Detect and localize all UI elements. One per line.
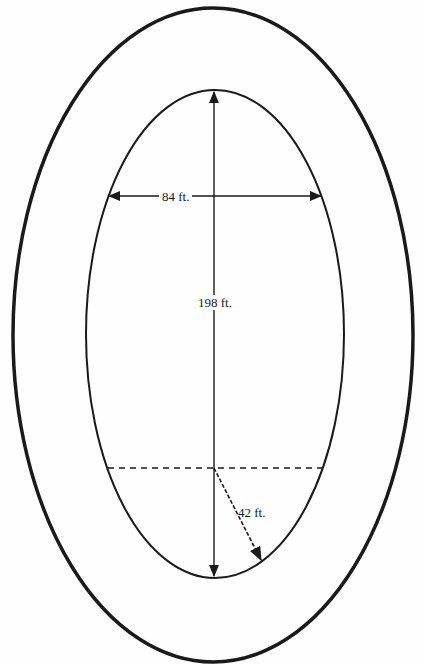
radius-label: 42 ft. (238, 505, 265, 520)
length-label: 198 ft. (195, 295, 235, 310)
outer-ellipse (13, 8, 413, 662)
diagram-svg (0, 0, 423, 664)
inner-ellipse (86, 90, 344, 578)
width-label: 84 ft. (159, 189, 192, 204)
track-diagram: 84 ft. 198 ft. 42 ft. (0, 0, 423, 664)
